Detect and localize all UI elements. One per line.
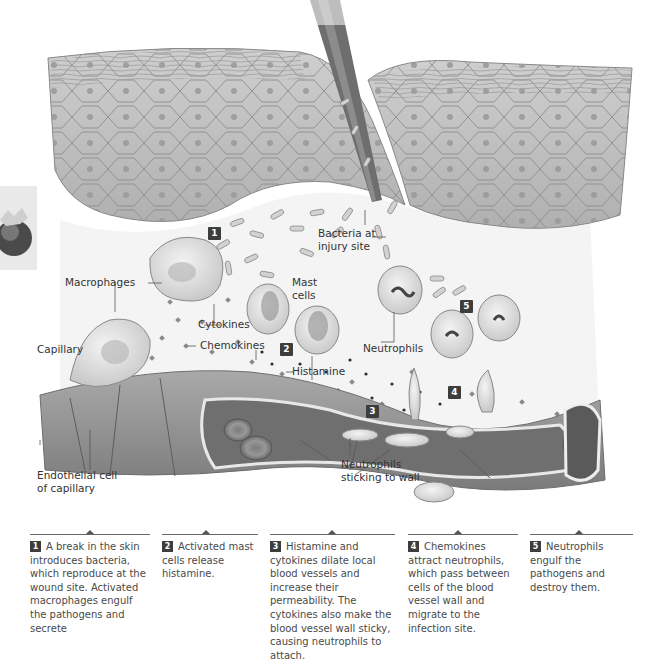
label-cytokines: Cytokines — [198, 318, 250, 331]
step-badge-3: 3 — [366, 405, 379, 418]
caption-text: Neutrophils engulf the pathogens and des… — [530, 541, 605, 593]
caption-divider — [408, 534, 518, 535]
caption-divider — [530, 534, 633, 535]
caption-divider — [270, 534, 395, 535]
caption-step-2: 2Activated mast cells release histamine. — [162, 534, 258, 581]
label-macrophages: Macrophages — [65, 276, 135, 289]
step-badge-2: 2 — [280, 343, 293, 356]
label-neutrophils: Neutrophils — [363, 342, 423, 355]
caption-step-3: 3Histamine and cytokines dilate local bl… — [270, 534, 395, 662]
illustration — [0, 0, 659, 530]
label-neutrophils-sticking: Neutrophils sticking to wall — [341, 458, 420, 484]
caption-step-5: 5Neutrophils engulf the pathogens and de… — [530, 534, 633, 594]
caption-step-4: 4Chemokines attract neutrophils, which p… — [408, 534, 518, 635]
label-chemokines: Chemokines — [200, 339, 265, 352]
label-capillary: Capillary — [37, 343, 83, 356]
caption-text: Histamine and cytokines dilate local blo… — [270, 541, 391, 661]
caption-number: 1 — [30, 541, 41, 552]
caption-divider — [162, 534, 258, 535]
caption-text: Activated mast cells release histamine. — [162, 541, 254, 579]
caption-text: A break in the skin introduces bacteria,… — [30, 541, 146, 634]
label-histamine: Histamine — [292, 365, 345, 378]
caption-divider — [30, 534, 150, 535]
step-badge-1: 1 — [208, 227, 221, 240]
step-badge-4: 4 — [448, 386, 461, 399]
skin-epidermis-right — [368, 60, 632, 228]
caption-number: 5 — [530, 541, 541, 552]
caption-number: 4 — [408, 541, 419, 552]
caption-number: 3 — [270, 541, 281, 552]
caption-text: Chemokines attract neutrophils, which pa… — [408, 541, 510, 634]
step-badge-5: 5 — [460, 300, 473, 313]
caption-number: 2 — [162, 541, 173, 552]
caption-step-1: 1A break in the skin introduces bacteria… — [30, 534, 150, 635]
label-endothelial-cell: Endothelial cell of capillary — [37, 469, 117, 495]
label-mast-cells: Mast cells — [292, 276, 317, 302]
label-bacteria: Bacteria at injury site — [318, 227, 376, 253]
